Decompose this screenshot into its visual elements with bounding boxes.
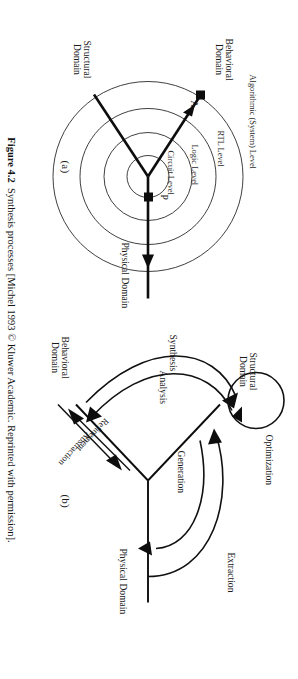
level-label-logic: Logic Level	[189, 144, 198, 185]
figure-number: Figure 4.2	[6, 137, 17, 182]
axis-label-structural-a-line2: Domain	[72, 43, 83, 74]
panel-b-letter: (b)	[60, 494, 72, 507]
axis-label-structural-b: Structural Domain	[238, 352, 258, 390]
label-extraction: Extraction	[226, 552, 236, 592]
arrowhead-generation	[138, 541, 152, 555]
label-synthesis: Synthesis	[168, 334, 178, 371]
figure-caption-text: Synthesis processes [Michel 1993 © Kluwe…	[6, 187, 17, 542]
figure-4-2: Behavioral Domain Structural Domain Phys…	[0, 0, 298, 679]
point-label-p: P	[158, 194, 168, 199]
point-label-a: A	[188, 100, 198, 107]
point-marker-p	[144, 192, 153, 201]
axis-label-physical-a: Physical Domain	[120, 242, 130, 308]
axis-structural-a	[94, 94, 148, 176]
label-optimization: Optimization	[264, 434, 274, 485]
panel-b-process-chart: Structural Domain Behavioral Domain Phys…	[46, 330, 298, 660]
axis-label-structural-a: Structural Domain	[72, 40, 92, 78]
panel-b-graphics	[46, 330, 298, 660]
axis-label-behavioral-b-line2: Domain	[50, 342, 61, 373]
arrowhead-optimization	[232, 406, 242, 422]
arrowhead-extraction	[208, 428, 222, 444]
level-label-rtl: RTL Level	[215, 130, 224, 166]
axis-label-behavioral-a: Behavioral Domain	[214, 38, 234, 80]
axis-label-structural-b-line2: Domain	[238, 355, 249, 386]
rotated-page: Behavioral Domain Structural Domain Phys…	[0, 0, 298, 679]
axis-label-physical-b: Physical Domain	[118, 548, 128, 614]
level-label-algorithmic: Algorithmic (System) Level	[247, 74, 256, 168]
axis-label-behavioral-b: Behavioral Domain	[50, 336, 70, 378]
axis-label-behavioral-a-line2: Domain	[214, 44, 225, 75]
label-analysis: Analysis	[158, 370, 168, 404]
point-marker-a	[196, 90, 205, 99]
arrowhead-physical-a	[142, 254, 154, 268]
axis-label-behavioral-b-line1: Behavioral	[60, 336, 71, 378]
axis-label-structural-a-line1: Structural	[82, 40, 93, 78]
axis-label-behavioral-a-line1: Behavioral	[224, 38, 235, 80]
label-generation: Generation	[176, 450, 186, 493]
panel-a-letter: (a)	[60, 160, 72, 173]
axis-label-structural-b-line1: Structural	[248, 352, 259, 390]
figure-caption: Figure 4.2 Synthesis processes [Michel 1…	[6, 0, 17, 679]
level-label-circuit: Circuit Level	[165, 150, 174, 194]
panel-a-y-chart: Behavioral Domain Structural Domain Phys…	[46, 8, 298, 328]
